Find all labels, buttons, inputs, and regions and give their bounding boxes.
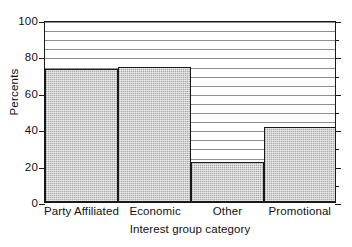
y-tick-minor bbox=[335, 113, 339, 114]
gridline bbox=[45, 22, 335, 23]
gridline bbox=[45, 49, 335, 50]
y-tick-left bbox=[39, 95, 45, 96]
bar-economic bbox=[118, 67, 191, 202]
x-axis-category-labels: Party AffiliatedEconomicOtherPromotional bbox=[44, 205, 336, 217]
gridline bbox=[45, 58, 335, 59]
x-category-label: Party Affiliated bbox=[44, 205, 119, 217]
gridline bbox=[45, 31, 335, 32]
y-tick-label: 40 bbox=[25, 124, 38, 136]
bar-other bbox=[191, 162, 264, 202]
bar-chart-figure: 020406080100 Percents Party AffiliatedEc… bbox=[0, 0, 352, 247]
y-tick-label: 0 bbox=[31, 197, 38, 209]
y-tick-label: 80 bbox=[25, 51, 38, 63]
y-tick-right bbox=[335, 168, 341, 169]
y-tick-right bbox=[335, 58, 341, 59]
y-tick-right bbox=[335, 22, 341, 23]
y-tick-minor bbox=[335, 186, 339, 187]
y-tick-minor bbox=[335, 149, 339, 150]
y-axis-title: Percents bbox=[8, 57, 20, 127]
plot-inner bbox=[45, 22, 335, 202]
y-tick-minor bbox=[335, 40, 339, 41]
y-tick-label: 20 bbox=[25, 161, 38, 173]
y-tick-left bbox=[39, 58, 45, 59]
y-tick-label: 100 bbox=[18, 15, 38, 27]
x-category-label: Other bbox=[191, 205, 263, 217]
y-tick-label: 60 bbox=[25, 88, 38, 100]
bar-party-affiliated bbox=[45, 69, 118, 202]
y-tick-left bbox=[39, 131, 45, 132]
y-tick-minor bbox=[335, 77, 339, 78]
y-tick-right bbox=[335, 95, 341, 96]
y-tick-right bbox=[335, 131, 341, 132]
plot-area bbox=[44, 21, 336, 203]
x-category-label: Economic bbox=[119, 205, 191, 217]
bar-promotional bbox=[264, 127, 335, 202]
y-tick-left bbox=[39, 168, 45, 169]
x-category-label: Promotional bbox=[264, 205, 336, 217]
x-axis-title: Interest group category bbox=[44, 223, 336, 235]
gridline bbox=[45, 40, 335, 41]
y-tick-left bbox=[39, 22, 45, 23]
